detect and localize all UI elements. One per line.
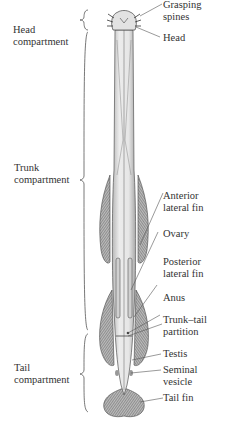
trunk-tail-partition-label: Trunk–tailpartition [163, 314, 207, 338]
trunk-compartment-label: Trunk compartment [14, 162, 69, 186]
seminal-vesicle-label: Seminalvesicle [163, 364, 197, 388]
tail-fin-label: Tail fin [163, 392, 193, 404]
anterior-lateral-fin-label: Anteriorlateral fin [163, 190, 204, 214]
anterior-lateral-fin-right [138, 175, 148, 263]
posterior-lateral-fin-left [100, 290, 114, 366]
head-label: Head [163, 32, 185, 44]
grasping-spines-label: Graspingspines [163, 0, 202, 23]
posterior-lateral-fin-label: Posteriorlateral fin [163, 256, 204, 280]
tail-compartment-label: Tail compartment [14, 362, 69, 386]
head [112, 11, 137, 31]
testis-label: Testis [163, 348, 187, 360]
head-compartment-label: Head compartment [13, 24, 68, 48]
anus-label: Anus [163, 292, 185, 304]
ovary-label: Ovary [163, 228, 189, 240]
compartment-braces [80, 10, 88, 412]
anterior-lateral-fin-left [100, 175, 110, 263]
posterior-lateral-fin-right [134, 290, 148, 366]
